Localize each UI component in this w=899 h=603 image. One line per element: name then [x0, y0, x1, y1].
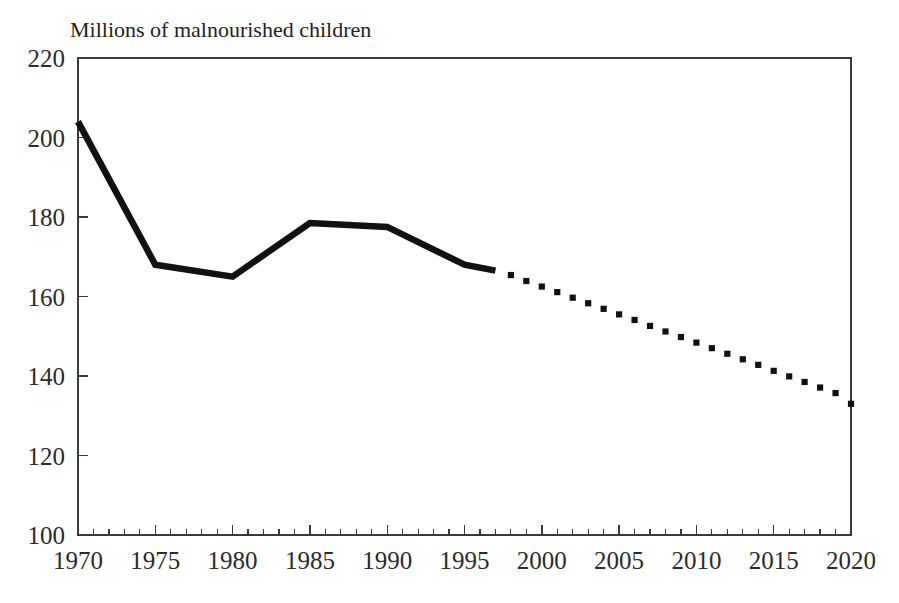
projection-dot-2009 [678, 334, 684, 340]
projection-dot-2015 [771, 368, 777, 374]
projection-dot-2000 [539, 283, 545, 289]
projection-dot-2007 [647, 323, 653, 329]
projection-dot-2010 [693, 340, 699, 346]
x-tick-label-2000: 2000 [517, 547, 567, 574]
projection-dot-2001 [554, 289, 560, 295]
y-tick-label-180: 180 [28, 204, 66, 231]
data-series-group [78, 122, 854, 407]
x-tick-label-2015: 2015 [749, 547, 799, 574]
projection-dot-2016 [786, 373, 792, 379]
chart-title: Millions of malnourished children [70, 17, 371, 42]
x-tick-label-1985: 1985 [285, 547, 335, 574]
x-tick-label-2005: 2005 [594, 547, 644, 574]
projection-dot-2019 [832, 390, 838, 396]
projection-dot-2006 [631, 317, 637, 323]
x-tick-label-2020: 2020 [826, 547, 876, 574]
projection-dot-2012 [724, 351, 730, 357]
x-tick-label-1980: 1980 [208, 547, 258, 574]
projection-dot-2017 [802, 379, 808, 385]
projection-dot-2014 [755, 362, 761, 368]
x-tick-label-2010: 2010 [671, 547, 721, 574]
chart-axes [78, 58, 851, 535]
series-line-historical [78, 122, 495, 277]
y-tick-label-100: 100 [28, 522, 66, 549]
projection-dot-2004 [601, 306, 607, 312]
y-axis-tick-labels: 100120140160180200220 [28, 45, 66, 549]
x-tick-label-1995: 1995 [440, 547, 490, 574]
projection-dot-2011 [709, 345, 715, 351]
x-axis-ticks [93, 525, 835, 535]
projection-dot-2020 [848, 401, 854, 407]
projection-dot-2018 [817, 384, 823, 390]
y-tick-label-200: 200 [28, 125, 66, 152]
x-tick-label-1990: 1990 [362, 547, 412, 574]
y-tick-label-120: 120 [28, 443, 66, 470]
series-dotted-projection [508, 272, 854, 407]
projection-dot-1999 [523, 278, 529, 284]
projection-dot-2002 [570, 295, 576, 301]
y-axis-ticks [78, 138, 88, 456]
chart-container: Millions of malnourished children 197019… [0, 0, 899, 603]
y-tick-label-140: 140 [28, 363, 66, 390]
projection-dot-1998 [508, 272, 514, 278]
projection-dot-2003 [585, 300, 591, 306]
axis-frame [78, 58, 851, 535]
y-tick-label-160: 160 [28, 284, 66, 311]
y-tick-label-220: 220 [28, 45, 66, 72]
projection-dot-2005 [616, 311, 622, 317]
projection-dot-2008 [662, 328, 668, 334]
projection-dot-2013 [740, 356, 746, 362]
x-tick-label-1975: 1975 [130, 547, 180, 574]
x-tick-label-1970: 1970 [53, 547, 103, 574]
x-axis-tick-labels: 1970197519801985199019952000200520102015… [53, 547, 876, 574]
line-chart: Millions of malnourished children 197019… [0, 0, 899, 603]
